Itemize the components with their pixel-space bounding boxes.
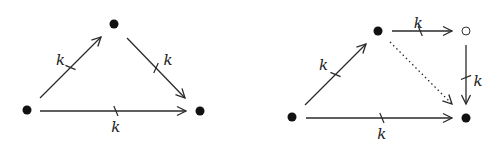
- diagram-canvas: kkkkkkk: [0, 0, 504, 143]
- edge-right-square-B-C: [390, 42, 452, 104]
- edge-tick-mark: [154, 63, 158, 73]
- node-right-square-C: [462, 114, 471, 123]
- node-left-triangle-B: [110, 20, 119, 29]
- edge-tick-mark: [65, 65, 75, 69]
- node-right-square-D-open: [462, 27, 470, 35]
- node-right-square-B: [374, 27, 383, 36]
- edge-tick-mark: [330, 72, 340, 76]
- node-left-triangle-A: [23, 106, 32, 115]
- edge-label: k: [473, 72, 482, 90]
- edge-label: k: [319, 56, 328, 74]
- edge-label: k: [56, 51, 65, 69]
- node-left-triangle-C: [196, 107, 205, 116]
- edge-label: k: [163, 51, 172, 69]
- edge-label: k: [377, 125, 386, 143]
- edge-label: k: [111, 118, 120, 136]
- node-right-square-A: [288, 113, 297, 122]
- edge-label: k: [414, 14, 423, 32]
